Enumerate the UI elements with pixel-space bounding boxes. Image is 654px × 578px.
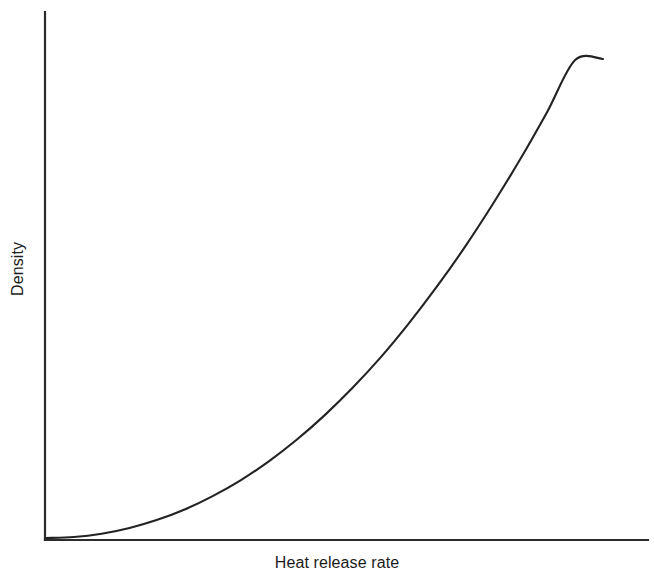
chart-plot-area [0, 0, 654, 578]
chart-figure: Density Heat release rate [0, 0, 654, 578]
y-axis-label: Density [10, 242, 26, 296]
data-curve-density [46, 56, 603, 538]
x-axis-label: Heat release rate [275, 555, 399, 571]
series-group [46, 56, 603, 538]
